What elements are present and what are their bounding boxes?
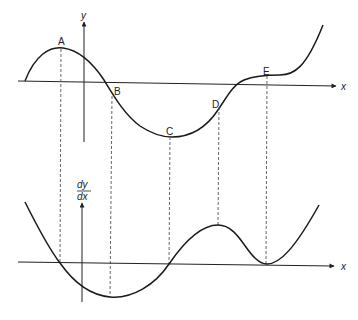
dx-label: dx — [77, 191, 89, 202]
top-graph: x y A B C D E — [18, 10, 347, 142]
top-curve — [25, 25, 323, 137]
bottom-y-axis-label: dy dx — [77, 179, 91, 202]
bottom-graph: x dy dx — [18, 179, 347, 302]
guide-line-d — [218, 107, 219, 225]
guide-line-c — [169, 137, 170, 264]
point-label-d: D — [212, 99, 219, 110]
point-label-b: B — [114, 86, 121, 97]
guide-line-e — [266, 76, 267, 264]
top-x-axis-label: x — [340, 81, 347, 92]
bottom-curve — [25, 202, 319, 297]
guide-line-b — [110, 96, 112, 297]
dy-label: dy — [77, 179, 89, 190]
guide-line-a — [60, 49, 61, 263]
derivative-diagram: x y A B C D E x dy dx — [0, 0, 358, 320]
point-label-e: E — [263, 66, 270, 77]
bottom-x-axis-label: x — [340, 261, 347, 272]
top-x-axis — [18, 81, 336, 86]
top-y-axis-label: y — [80, 10, 87, 21]
point-label-a: A — [58, 36, 65, 47]
point-label-c: C — [166, 126, 173, 137]
bottom-x-axis — [18, 262, 334, 266]
